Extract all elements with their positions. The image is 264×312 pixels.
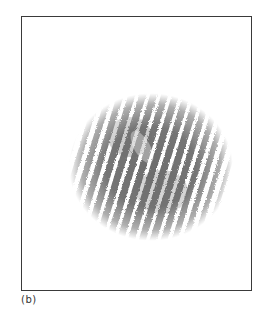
- panel-label: (b): [21, 294, 37, 305]
- fringe-stripes: [40, 47, 251, 285]
- figure-frame: [21, 16, 252, 291]
- fringe-pattern-image: [22, 17, 251, 290]
